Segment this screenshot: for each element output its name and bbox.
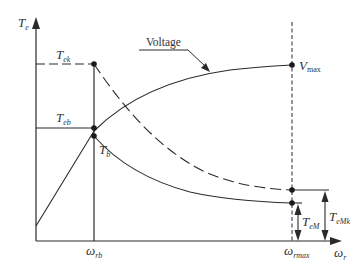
x-axis-label: ωr xyxy=(334,245,347,262)
tem-point xyxy=(289,200,295,206)
voltage-label: Voltage xyxy=(146,36,181,49)
rated-torque-curve xyxy=(94,136,292,203)
temk-label: TeMk xyxy=(329,209,350,226)
x-axis xyxy=(36,237,342,245)
tem-arrow-down-icon xyxy=(295,230,302,241)
tem-dimension-arrow xyxy=(295,204,302,241)
temk-point xyxy=(289,187,295,193)
tb-label: Tb xyxy=(99,142,110,159)
temk-dimension-arrow xyxy=(322,191,329,241)
tek-label: Tek xyxy=(56,47,71,64)
y-axis xyxy=(32,17,40,241)
vmax-point xyxy=(289,62,295,68)
y-axis-arrow-icon xyxy=(32,17,40,29)
max-speed-tick-label: ωrmax xyxy=(284,243,310,260)
vmax-label: Vmax xyxy=(299,58,321,74)
base-speed-tick-label: ωrb xyxy=(86,243,102,260)
voltage-curve xyxy=(36,65,292,226)
x-axis-arrow-icon xyxy=(330,237,342,245)
tek-point xyxy=(91,61,97,67)
tem-arrow-up-icon xyxy=(295,204,302,215)
tem-label: TeM xyxy=(302,214,321,231)
temk-arrow-up-icon xyxy=(322,191,329,202)
voltage-leader xyxy=(139,50,210,72)
torque-speed-diagram: Te ωr Tek Teb xyxy=(0,0,364,275)
y-axis-label: Te xyxy=(18,15,29,32)
peak-torque-dashed-curve xyxy=(94,64,292,190)
teb-label: Teb xyxy=(56,110,71,127)
tb-point xyxy=(91,133,97,139)
temk-arrow-down-icon xyxy=(322,230,329,241)
voltage-arrow-icon xyxy=(201,63,210,72)
teb-point xyxy=(91,125,97,131)
